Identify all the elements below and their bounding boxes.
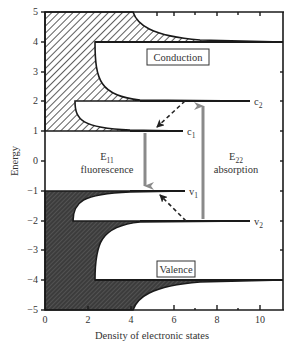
x-axis-title: Density of electronic states <box>95 330 209 341</box>
y-axis-title: Energy <box>9 145 20 176</box>
svg-text:−2: −2 <box>27 215 38 226</box>
svg-text:−3: −3 <box>27 244 38 255</box>
svg-text:2: 2 <box>86 314 91 325</box>
svg-text:4: 4 <box>33 36 38 47</box>
svg-text:0: 0 <box>43 314 48 325</box>
svg-text:4: 4 <box>129 314 134 325</box>
y-tick-labels: 5 4 3 2 1 0 −1 −2 −3 −4 −5 <box>27 6 38 315</box>
v2-label: v2 <box>254 216 263 230</box>
valence-label: Valence <box>159 264 193 275</box>
svg-text:6: 6 <box>172 314 177 325</box>
band-diagram: 5 4 3 2 1 0 −1 −2 −3 −4 −5 0 2 4 6 8 10 … <box>0 0 290 346</box>
conduction-dos-region <box>45 12 283 131</box>
v1-label: v1 <box>189 186 198 200</box>
svg-text:10: 10 <box>255 314 265 325</box>
svg-text:−4: −4 <box>27 274 38 285</box>
e22-label: E22 <box>229 151 243 165</box>
c2-to-c1-relaxation-arrow <box>157 101 185 127</box>
svg-text:8: 8 <box>215 314 220 325</box>
svg-text:2: 2 <box>33 95 38 106</box>
svg-text:0: 0 <box>33 155 38 166</box>
absorption-label: absorption <box>214 164 259 175</box>
v2-to-v1-relaxation-arrow <box>160 195 186 221</box>
c1-label: c1 <box>187 126 196 140</box>
svg-text:1: 1 <box>33 125 38 136</box>
conduction-label: Conduction <box>154 52 204 63</box>
e11-label: E11 <box>100 151 114 165</box>
x-tick-labels: 0 2 4 6 8 10 <box>43 314 266 325</box>
c2-label: c2 <box>254 96 263 110</box>
svg-text:−1: −1 <box>27 185 38 196</box>
fluorescence-label: fluorescence <box>80 164 133 175</box>
valence-dos-region <box>45 191 283 310</box>
svg-text:3: 3 <box>33 66 38 77</box>
svg-text:−5: −5 <box>27 304 38 315</box>
svg-text:5: 5 <box>33 6 38 17</box>
